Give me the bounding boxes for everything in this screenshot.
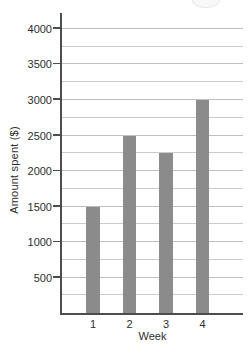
bar-chart-figure: Amount spent ($) Week 500100015002000250… — [0, 0, 250, 353]
gridline-3250 — [62, 81, 243, 82]
plot-area: Week 50010001500200025003000350040001234 — [60, 13, 243, 315]
gridline-2250 — [62, 152, 243, 153]
y-tick-mark-2000 — [53, 170, 60, 172]
x-axis-title: Week — [139, 330, 167, 342]
y-tick-label-3000: 3000 — [28, 94, 52, 106]
gridline-2750 — [62, 117, 243, 118]
y-tick-mark-1000 — [53, 241, 60, 243]
y-tick-mark-4000 — [53, 27, 60, 29]
y-tick-label-2500: 2500 — [28, 130, 52, 142]
cropped-circle-artifact — [192, 0, 220, 8]
y-tick-mark-3000 — [53, 98, 60, 100]
x-tick-label-2: 2 — [126, 318, 132, 330]
y-tick-label-2000: 2000 — [28, 165, 52, 177]
y-tick-mark-500 — [53, 276, 60, 278]
gridline-3000 — [62, 99, 243, 100]
gridline-1750 — [62, 188, 243, 189]
gridline-2000 — [62, 170, 243, 171]
bar-week-4 — [196, 100, 210, 313]
y-tick-label-500: 500 — [34, 272, 52, 284]
x-tick-label-1: 1 — [90, 318, 96, 330]
y-tick-label-4000: 4000 — [28, 23, 52, 35]
x-tick-label-4: 4 — [199, 318, 205, 330]
gridline-3750 — [62, 46, 243, 47]
x-tick-label-3: 3 — [163, 318, 169, 330]
y-tick-mark-3500 — [53, 63, 60, 65]
gridline-4000 — [62, 28, 243, 29]
gridline-2500 — [62, 135, 243, 136]
bar-week-2 — [123, 136, 137, 314]
bar-week-1 — [86, 207, 100, 314]
y-tick-mark-2500 — [53, 134, 60, 136]
y-tick-label-1000: 1000 — [28, 236, 52, 248]
y-tick-label-3500: 3500 — [28, 58, 52, 70]
y-axis-title: Amount spent ($) — [8, 126, 20, 214]
y-tick-label-1500: 1500 — [28, 201, 52, 213]
y-tick-mark-1500 — [53, 205, 60, 207]
bar-week-3 — [159, 153, 173, 313]
gridline-3500 — [62, 63, 243, 64]
